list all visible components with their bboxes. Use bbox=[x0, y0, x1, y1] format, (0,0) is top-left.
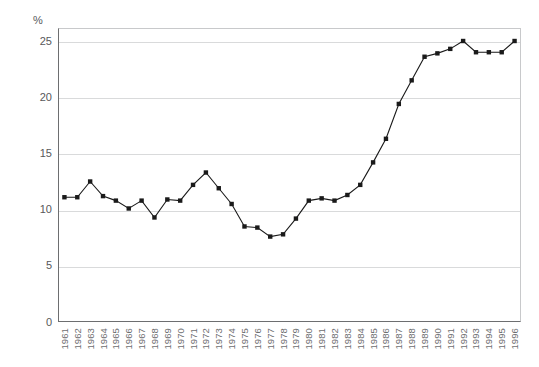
chart-container: % 0510152025 196119621963196419651966196… bbox=[0, 0, 539, 367]
data-point-marker bbox=[409, 78, 413, 82]
data-point-marker bbox=[474, 50, 478, 54]
data-point-marker bbox=[204, 170, 208, 174]
data-point-marker bbox=[345, 193, 349, 197]
data-point-marker bbox=[487, 50, 491, 54]
data-point-marker bbox=[512, 39, 516, 43]
data-point-marker bbox=[294, 216, 298, 220]
data-point-marker bbox=[255, 225, 259, 229]
data-point-marker bbox=[461, 39, 465, 43]
data-point-marker bbox=[397, 102, 401, 106]
data-point-marker bbox=[178, 198, 182, 202]
data-point-marker bbox=[242, 224, 246, 228]
data-point-marker bbox=[75, 195, 79, 199]
data-point-marker bbox=[422, 55, 426, 59]
data-point-marker bbox=[139, 198, 143, 202]
data-point-marker bbox=[165, 197, 169, 201]
data-point-marker bbox=[371, 160, 375, 164]
data-point-marker bbox=[435, 51, 439, 55]
data-point-marker bbox=[152, 215, 156, 219]
data-point-marker bbox=[127, 206, 131, 210]
data-point-marker bbox=[217, 186, 221, 190]
data-point-marker bbox=[358, 183, 362, 187]
data-point-marker bbox=[62, 195, 66, 199]
data-point-marker bbox=[229, 202, 233, 206]
data-point-marker bbox=[281, 232, 285, 236]
data-point-marker bbox=[101, 194, 105, 198]
data-point-marker bbox=[448, 47, 452, 51]
data-point-marker bbox=[332, 198, 336, 202]
data-point-marker bbox=[500, 50, 504, 54]
series-line-path bbox=[64, 41, 514, 237]
data-point-marker bbox=[268, 234, 272, 238]
data-point-marker bbox=[307, 198, 311, 202]
data-point-marker bbox=[384, 137, 388, 141]
data-series-line bbox=[0, 0, 539, 367]
data-point-marker bbox=[319, 196, 323, 200]
data-point-marker bbox=[88, 179, 92, 183]
data-point-marker bbox=[114, 198, 118, 202]
data-point-marker bbox=[191, 183, 195, 187]
